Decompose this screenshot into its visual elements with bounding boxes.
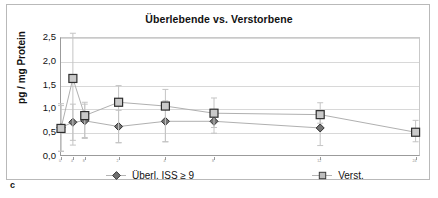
x-tick-label: 2	[110, 159, 126, 163]
diamond-marker-icon	[112, 171, 121, 180]
chart-title: Überlebende vs. Verstorbene	[0, 13, 438, 25]
legend-line-survivors	[106, 175, 126, 176]
data-point-square	[161, 102, 169, 110]
series-survivors	[57, 101, 324, 151]
y-tick-label: 2,5	[26, 31, 56, 42]
figure-panel: Überlebende vs. Verstorbene pg / mg Prot…	[0, 0, 438, 198]
data-point-square	[412, 128, 420, 136]
y-tick-label: 0,5	[26, 126, 56, 137]
data-point-square	[57, 124, 65, 132]
data-point-square	[115, 98, 123, 106]
series-layer	[61, 38, 421, 157]
y-tick-label: 1,0	[26, 102, 56, 113]
legend-label-survivors: Überl. ISS ≥ 9	[132, 170, 194, 181]
data-point-square	[210, 109, 218, 117]
panel-letter: c	[10, 180, 15, 190]
data-point-square	[316, 111, 324, 119]
x-tick-label: 8	[205, 159, 221, 163]
y-axis-title: pg / mg Protein	[16, 13, 27, 123]
legend-item-deceased[interactable]: Verst.	[312, 170, 364, 181]
x-tick-label: 4	[156, 159, 172, 163]
square-marker-icon	[318, 171, 327, 180]
series-deceased	[57, 33, 420, 151]
data-point-square	[69, 74, 77, 82]
series-line	[61, 121, 320, 128]
x-tick-label: 8	[76, 159, 92, 163]
data-point-diamond	[316, 124, 324, 132]
legend-label-deceased: Verst.	[338, 170, 364, 181]
x-tick-label: 24	[407, 159, 423, 163]
legend-item-survivors[interactable]: Überl. ISS ≥ 9	[106, 170, 194, 181]
y-tick-label: 1,5	[26, 79, 56, 90]
plot-area	[60, 37, 420, 156]
y-tick-label: 2,0	[26, 55, 56, 66]
data-point-square	[81, 112, 89, 120]
x-tick-label: 12	[311, 159, 327, 163]
chart-legend: Überl. ISS ≥ 9 Verst.	[60, 166, 420, 184]
legend-line-deceased	[312, 175, 332, 176]
